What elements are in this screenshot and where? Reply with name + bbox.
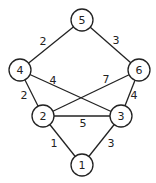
edge-weight-label: 3: [108, 137, 115, 150]
weighted-graph-diagram: 234724513 123456: [0, 0, 156, 183]
edges-layer: [20, 20, 139, 165]
node-label: 6: [136, 64, 143, 77]
edge-weight-label: 3: [113, 34, 120, 47]
edge-weight-label: 5: [80, 117, 87, 130]
node-1: 1: [71, 154, 93, 176]
edge-weight-label: 1: [51, 137, 58, 150]
node-label: 1: [79, 159, 86, 172]
node-label: 3: [118, 110, 125, 123]
edge-weight-label: 4: [50, 74, 57, 87]
node-label: 4: [17, 64, 24, 77]
node-label: 2: [40, 110, 47, 123]
node-3: 3: [110, 105, 132, 127]
edge-weight-label: 7: [103, 73, 110, 86]
node-label: 5: [79, 14, 86, 27]
edge-weight-label: 4: [131, 89, 138, 102]
node-5: 5: [71, 9, 93, 31]
nodes-layer: 123456: [9, 9, 150, 176]
node-4: 4: [9, 59, 31, 81]
node-2: 2: [32, 105, 54, 127]
edge-weights-layer: 234724513: [21, 34, 138, 150]
edge-5-4: [20, 20, 82, 70]
node-6: 6: [128, 59, 150, 81]
edge-weight-label: 2: [40, 35, 47, 48]
edge-weight-label: 2: [21, 89, 28, 102]
